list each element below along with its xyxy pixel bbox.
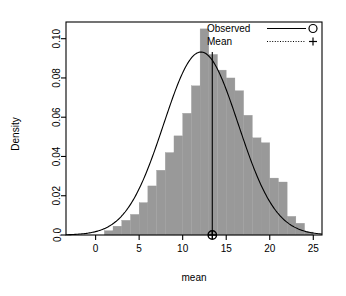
histogram-bar [139,203,148,235]
histogram-bar [209,54,218,235]
y-axis-tick-label: 0.0 [52,228,63,242]
legend-label-observed: Observed [207,23,250,34]
y-axis-tick-label: 0.04 [52,146,63,166]
histogram-bar [130,214,139,235]
y-axis-tick-label: 0.08 [52,68,63,88]
histogram-bar [252,138,261,235]
histogram-bar [270,178,279,235]
histogram-bar [235,91,244,235]
x-axis-title: mean [181,272,206,283]
histogram-bar [122,220,131,235]
x-axis-tick-label: 5 [136,243,142,254]
x-axis: 0510152025 [93,235,319,254]
histogram-bar [191,86,200,235]
histogram-bar [278,182,287,235]
histogram-bar [165,153,174,235]
x-axis-tick-label: 20 [264,243,276,254]
y-axis: 0.00.020.040.060.080.10 [52,29,67,242]
density-histogram-plot: 0510152025 0.00.020.040.060.080.10 mean … [0,0,346,296]
legend-label-mean: Mean [207,36,232,47]
histogram-bar [174,136,183,235]
histogram-bar [244,115,253,235]
histogram-bar [157,170,166,235]
histogram-bar [148,186,157,235]
histogram-bar [218,70,227,235]
x-axis-tick-label: 0 [93,243,99,254]
histogram-bar [183,113,192,235]
x-axis-tick-label: 15 [221,243,233,254]
x-axis-tick-label: 25 [308,243,320,254]
y-axis-tick-label: 0.02 [52,186,63,206]
histogram-bar [104,231,113,235]
y-axis-tick-label: 0.10 [52,29,63,49]
histogram-bar [200,29,209,235]
x-axis-tick-label: 10 [177,243,189,254]
histogram-bar [113,226,122,235]
y-axis-tick-label: 0.06 [52,107,63,127]
histogram-bar [296,223,305,235]
y-axis-title: Density [10,117,21,150]
chart-canvas: 0510152025 0.00.020.040.060.080.10 mean … [0,0,346,296]
